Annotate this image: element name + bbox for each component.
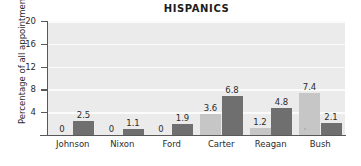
bar-value-reagan-light: 1.2: [246, 117, 275, 127]
bar-value-bush-dark: 2.1: [317, 112, 346, 122]
bar-value-johnson-light: 0: [48, 124, 77, 134]
gridline: [48, 21, 345, 23]
y-tick-mark: [41, 21, 47, 22]
chart-title: HISPANICS: [48, 3, 345, 14]
bar-value-carter-light: 3.6: [196, 103, 225, 113]
gridline: [48, 67, 345, 69]
y-tick-label: 12: [12, 62, 36, 72]
bar-bush-dark: [321, 123, 342, 135]
y-tick-mark: [41, 44, 47, 45]
x-axis-line: [40, 135, 346, 136]
bar-value-carter-dark: 6.8: [218, 85, 247, 95]
bar-value-reagan-dark: 4.8: [267, 97, 296, 107]
bar-value-johnson-dark: 2.5: [69, 110, 98, 120]
y-tick-mark: [41, 112, 47, 113]
bar-value-bush-light: 7.4: [295, 82, 324, 92]
y-tick-label: 8: [12, 84, 36, 94]
bar-carter-dark: [222, 96, 243, 135]
y-axis-line: [47, 21, 48, 136]
bar-carter-light: [200, 114, 221, 135]
y-tick-label: 20: [12, 16, 36, 26]
y-tick-mark: [41, 67, 47, 68]
gridline: [48, 44, 345, 46]
bar-value-ford-light: 0: [147, 124, 176, 134]
y-tick-label: 4: [12, 107, 36, 117]
bar-value-nixon-dark: 1.1: [119, 118, 148, 128]
y-tick-mark: [41, 89, 47, 90]
y-tick-label: 16: [12, 39, 36, 49]
bar-value-ford-dark: 1.9: [168, 113, 197, 123]
hispanics-bar-chart: HISPANICS Percentage of all appointments…: [0, 0, 361, 166]
scan-artifact: [304, 128, 306, 130]
bar-reagan-light: [250, 128, 271, 135]
x-label-bush: Bush: [290, 139, 350, 149]
